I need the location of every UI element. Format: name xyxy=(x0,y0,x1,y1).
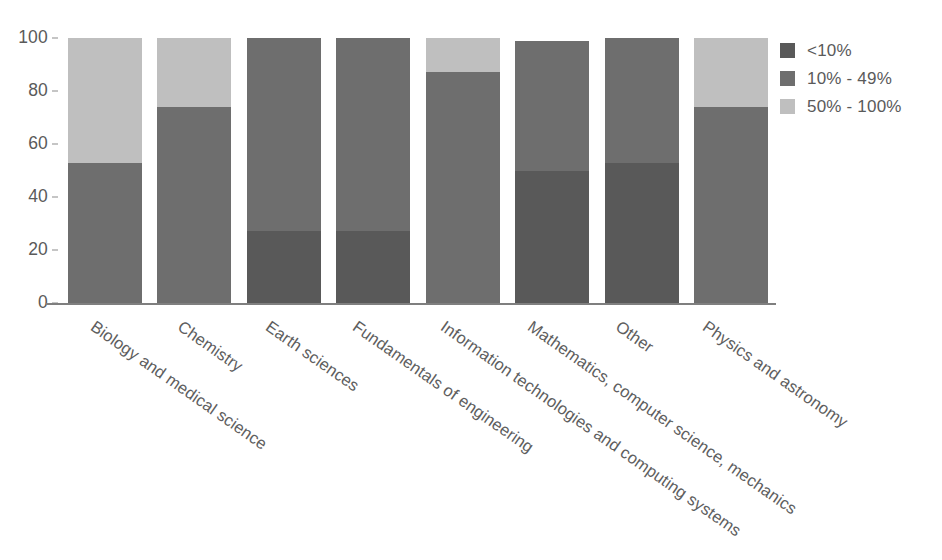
legend: <10%10% - 49%50% - 100% xyxy=(780,38,940,122)
bar-group[interactable] xyxy=(336,38,410,303)
legend-swatch-icon xyxy=(780,43,795,58)
bar-segment[interactable] xyxy=(426,72,500,303)
legend-item[interactable]: <10% xyxy=(780,38,940,63)
y-tick-label: 80 xyxy=(28,82,48,100)
y-tick-mark xyxy=(52,250,58,251)
bar-segment[interactable] xyxy=(515,171,589,304)
x-axis-label: Information technologies and computing s… xyxy=(437,317,745,540)
bar-segment[interactable] xyxy=(336,231,410,303)
bar-segment[interactable] xyxy=(694,38,768,107)
bar-segment[interactable] xyxy=(157,38,231,107)
y-axis: 020406080100 xyxy=(0,38,58,303)
bar-group[interactable] xyxy=(68,38,142,303)
x-axis-label: Other xyxy=(612,317,657,357)
bar-group[interactable] xyxy=(605,38,679,303)
y-tick-mark xyxy=(52,197,58,198)
y-tick-mark xyxy=(52,144,58,145)
bar-group[interactable] xyxy=(426,38,500,303)
bar-segment[interactable] xyxy=(605,163,679,303)
x-axis-label: Biology and medical science xyxy=(87,317,271,454)
legend-label: <10% xyxy=(807,41,852,61)
legend-label: 10% - 49% xyxy=(807,69,892,89)
bar-segment[interactable] xyxy=(68,38,142,163)
bar-segment[interactable] xyxy=(247,38,321,231)
bar-group[interactable] xyxy=(694,38,768,303)
bar-segment[interactable] xyxy=(426,38,500,72)
bar-group[interactable] xyxy=(157,38,231,303)
y-tick-label: 40 xyxy=(28,188,48,206)
bar-segment[interactable] xyxy=(247,231,321,303)
y-tick-mark xyxy=(52,38,58,39)
x-axis-labels: Biology and medical scienceChemistryEart… xyxy=(68,303,768,553)
legend-swatch-icon xyxy=(780,71,795,86)
bar-series-container xyxy=(68,38,768,303)
legend-swatch-icon xyxy=(780,99,795,114)
x-axis-label: Earth sciences xyxy=(262,317,363,395)
y-tick-label: 100 xyxy=(18,29,48,47)
bar-segment[interactable] xyxy=(157,107,231,303)
stacked-bar-chart: 020406080100 Biology and medical science… xyxy=(0,0,942,560)
y-tick-label: 60 xyxy=(28,135,48,153)
bar-group[interactable] xyxy=(247,38,321,303)
legend-label: 50% - 100% xyxy=(807,97,902,117)
x-axis-label: Fundamentals of engineering xyxy=(349,317,537,457)
y-tick-label: 20 xyxy=(28,241,48,259)
plot-area xyxy=(68,38,768,303)
bar-group[interactable] xyxy=(515,38,589,303)
bar-segment[interactable] xyxy=(68,163,142,303)
bar-segment[interactable] xyxy=(694,107,768,303)
bar-segment[interactable] xyxy=(605,38,679,163)
legend-item[interactable]: 50% - 100% xyxy=(780,94,940,119)
bar-segment[interactable] xyxy=(336,38,410,231)
y-tick-mark xyxy=(52,91,58,92)
x-axis-label: Physics and astronomy xyxy=(699,317,851,432)
legend-item[interactable]: 10% - 49% xyxy=(780,66,940,91)
bar-segment[interactable] xyxy=(515,41,589,171)
x-axis-label: Chemistry xyxy=(174,317,246,376)
